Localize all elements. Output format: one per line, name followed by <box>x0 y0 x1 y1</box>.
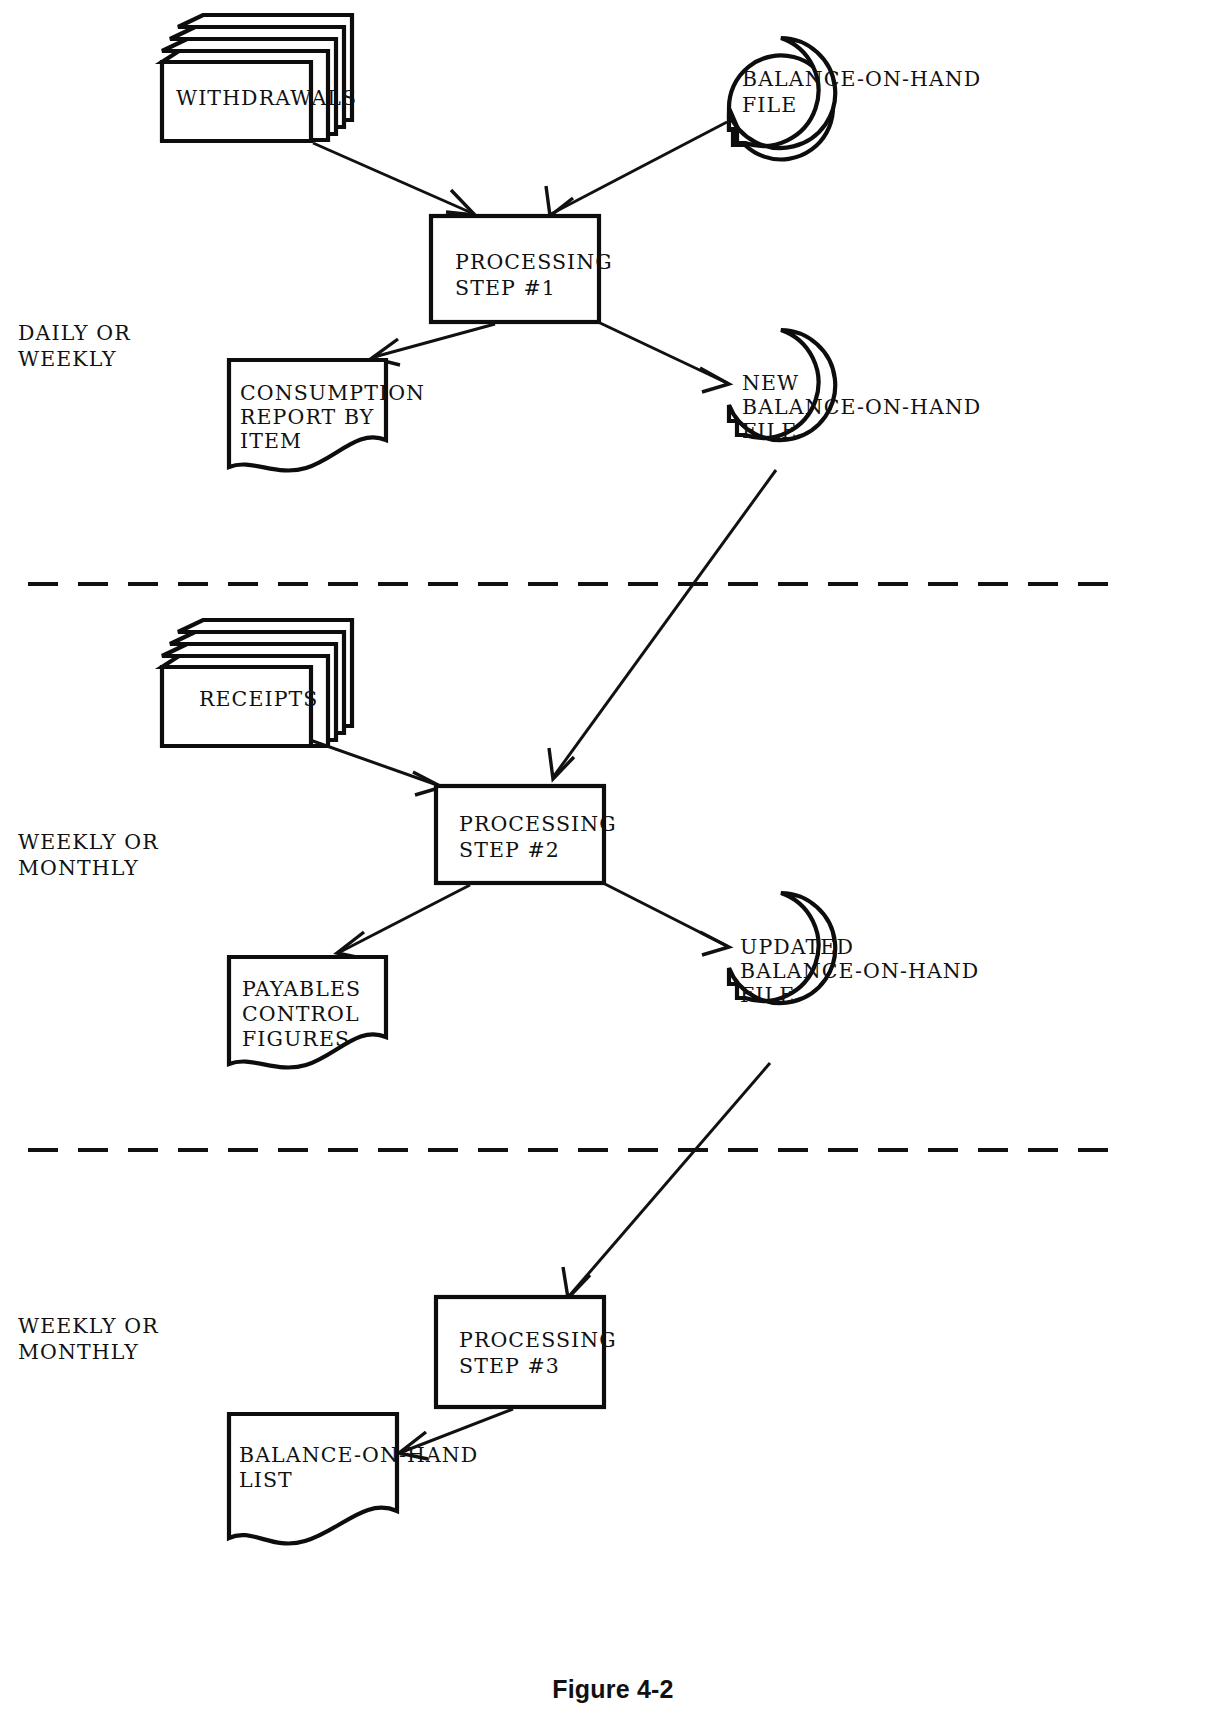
node-consumption-report-line3: ITEM <box>240 429 302 453</box>
phase-label-1: DAILY OR WEEKLY <box>18 321 131 371</box>
edge-updated-bohfile-to-step3 <box>563 1063 770 1298</box>
edge-new-bohfile-to-step2 <box>549 470 776 779</box>
figure-caption: Figure 4-2 <box>552 1675 673 1703</box>
node-processing-step-2-line2: STEP #2 <box>459 838 560 862</box>
node-updated-balance-on-hand-file-line1: UPDATED <box>740 935 854 959</box>
edge-step1-to-consumption-report <box>372 324 495 365</box>
node-new-balance-on-hand-file-line1: NEW <box>742 371 799 395</box>
node-receipts-label: RECEIPTS <box>199 687 318 711</box>
node-updated-balance-on-hand-file-line2: BALANCE-ON-HAND <box>740 959 979 983</box>
edge-step2-to-payables <box>337 885 470 959</box>
node-payables-control-line3: FIGURES <box>242 1027 350 1051</box>
edge-receipts-to-step2 <box>310 740 442 795</box>
node-processing-step-3-line1: PROCESSING <box>459 1328 617 1352</box>
node-balance-on-hand-file-line2: FILE <box>742 93 797 117</box>
node-new-balance-on-hand-file[interactable]: NEW BALANCE-ON-HAND FILE <box>729 330 981 443</box>
node-processing-step-1-line2: STEP #1 <box>455 276 556 300</box>
phase-label-3-line1: WEEKLY OR <box>18 1314 159 1338</box>
node-consumption-report-line1: CONSUMPTION <box>240 381 425 405</box>
node-processing-step-1[interactable]: PROCESSING STEP #1 <box>431 216 613 322</box>
node-balance-on-hand-list-line2: LIST <box>239 1468 293 1492</box>
phase-label-2: WEEKLY OR MONTHLY <box>18 830 159 880</box>
node-balance-on-hand-file-line1: BALANCE-ON-HAND <box>742 67 981 91</box>
node-balance-on-hand-list-line1: BALANCE-ON-HAND <box>239 1443 478 1467</box>
node-balance-on-hand-list[interactable]: BALANCE-ON-HAND LIST <box>229 1414 478 1543</box>
node-payables-control-line2: CONTROL <box>242 1002 360 1026</box>
edge-bohfile-to-step1 <box>546 122 727 216</box>
node-consumption-report[interactable]: CONSUMPTION REPORT BY ITEM <box>229 360 425 470</box>
phase-label-3: WEEKLY OR MONTHLY <box>18 1314 159 1364</box>
node-processing-step-3-line2: STEP #3 <box>459 1354 560 1378</box>
node-processing-step-3[interactable]: PROCESSING STEP #3 <box>436 1297 617 1407</box>
node-withdrawals[interactable]: WITHDRAWALS <box>162 15 357 141</box>
node-payables-control[interactable]: PAYABLES CONTROL FIGURES <box>229 957 386 1067</box>
figure-canvas: WITHDRAWALS BALANCE-ON-HAND FILE PROCESS… <box>0 0 1227 1728</box>
edge-step2-to-updated-bohfile <box>603 883 729 955</box>
node-new-balance-on-hand-file-line2: BALANCE-ON-HAND <box>742 395 981 419</box>
node-withdrawals-label: WITHDRAWALS <box>176 86 357 110</box>
node-processing-step-2[interactable]: PROCESSING STEP #2 <box>436 786 617 883</box>
edge-step1-to-new-bohfile <box>598 322 729 392</box>
flowchart-diagram: WITHDRAWALS BALANCE-ON-HAND FILE PROCESS… <box>0 0 1227 1728</box>
node-processing-step-2-line1: PROCESSING <box>459 812 617 836</box>
phase-label-3-line2: MONTHLY <box>18 1340 139 1364</box>
node-balance-on-hand-file[interactable]: BALANCE-ON-HAND FILE <box>729 38 981 159</box>
node-receipts[interactable]: RECEIPTS <box>162 620 352 746</box>
node-updated-balance-on-hand-file-line3: FILE <box>740 983 795 1007</box>
node-new-balance-on-hand-file-line3: FILE <box>742 419 797 443</box>
phase-label-1-line1: DAILY OR <box>18 321 131 345</box>
node-consumption-report-line2: REPORT BY <box>240 405 374 429</box>
node-updated-balance-on-hand-file[interactable]: UPDATED BALANCE-ON-HAND FILE <box>729 893 979 1007</box>
phase-label-1-line2: WEEKLY <box>18 347 117 371</box>
node-payables-control-line1: PAYABLES <box>242 977 361 1001</box>
edge-withdrawals-to-step1 <box>313 143 475 215</box>
node-processing-step-1-line1: PROCESSING <box>455 250 613 274</box>
phase-label-2-line2: MONTHLY <box>18 856 139 880</box>
phase-label-2-line1: WEEKLY OR <box>18 830 159 854</box>
